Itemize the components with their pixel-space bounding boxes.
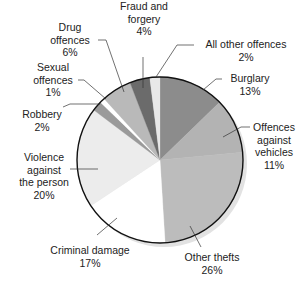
leader-robbery [63, 104, 100, 107]
label-fraud-and-forgery: Fraud and forgery 4% [114, 0, 174, 38]
leader-sexual [78, 80, 106, 99]
label-criminal-damage: Criminal damage 17% [44, 244, 136, 269]
label-all-other-offences: All other offences 2% [196, 38, 296, 63]
label-other-thefts: Other thefts 26% [174, 251, 250, 276]
leader-allother [156, 45, 194, 77]
leader-burglary [203, 79, 222, 90]
pie-slices [77, 77, 243, 243]
label-drug-offences: Drug offences 6% [42, 21, 98, 59]
label-robbery: Robbery 2% [18, 108, 66, 133]
label-violence-against-the-person: Violence against the person 20% [14, 151, 74, 201]
slice-other-thefts [160, 152, 243, 243]
label-sexual-offences: Sexual offences 1% [28, 61, 78, 99]
label-offences-against-vehicles: Offences against vehicles 11% [246, 121, 302, 171]
label-burglary: Burglary 13% [222, 72, 278, 97]
leader-drug [98, 40, 124, 92]
